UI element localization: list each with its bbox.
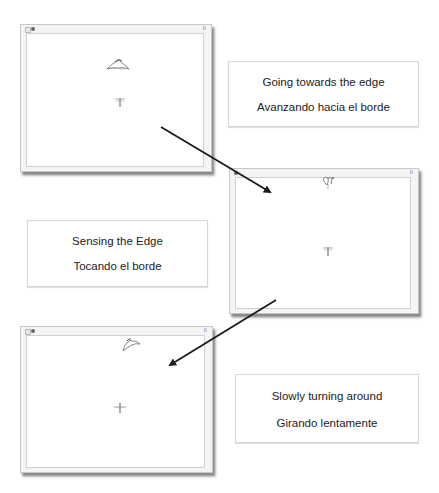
flow-arrows xyxy=(0,0,439,493)
arrow-step2-to-step3 xyxy=(170,300,276,365)
arrow-step1-to-step2 xyxy=(161,127,270,192)
